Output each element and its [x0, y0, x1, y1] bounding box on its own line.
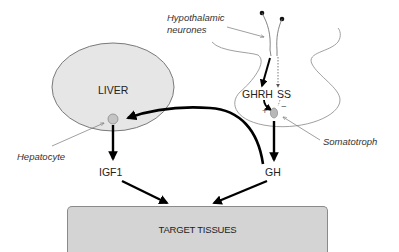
ghrh-label: GHRH	[242, 89, 273, 100]
igf1-to-target-arrow	[122, 181, 167, 203]
hypothalamic-neurones-label-line2: neurones	[167, 25, 207, 35]
ss-inhibition-line	[278, 100, 280, 106]
hypothalamic-neurones-label-line1: Hypothalamic	[167, 13, 225, 23]
hepatocyte-label: Hepatocyte	[17, 152, 65, 162]
somatotroph-cell	[270, 108, 277, 118]
somatotroph-pointer	[283, 117, 320, 140]
gh-to-target-arrow	[214, 181, 267, 203]
stimulation-plus-sign: +	[262, 106, 268, 116]
target-tissues-label: TARGET TISSUES	[159, 224, 237, 235]
ss-label: SS	[277, 89, 291, 100]
somatotroph-label: Somatotroph	[323, 137, 377, 147]
ghrh-release-arrow	[262, 58, 270, 86]
hypothalamic-neurone-ss	[277, 17, 285, 56]
igf1-label: IGF1	[99, 167, 122, 178]
hypothalamic-neurone-ghrh	[260, 11, 271, 56]
target-tissues-box: TARGET TISSUES	[67, 206, 328, 252]
inhibition-minus-sign: −	[281, 102, 287, 112]
liver-label: LIVER	[98, 85, 128, 96]
hepatocyte-pointer	[52, 123, 104, 146]
hypothalamic-neurones-pointer	[227, 27, 264, 37]
gh-label: GH	[265, 167, 281, 178]
hepatocyte-cell	[108, 114, 118, 124]
